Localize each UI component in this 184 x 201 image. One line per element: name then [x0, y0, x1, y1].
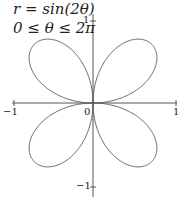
x-tick-label-pos1: 1 [173, 106, 179, 117]
y-tick-label-neg1: −1 [76, 180, 91, 191]
x-tick-label-neg1: −1 [3, 106, 18, 117]
y-tick-label-pos1: 1 [83, 14, 89, 25]
origin-label: 0 [84, 106, 90, 117]
